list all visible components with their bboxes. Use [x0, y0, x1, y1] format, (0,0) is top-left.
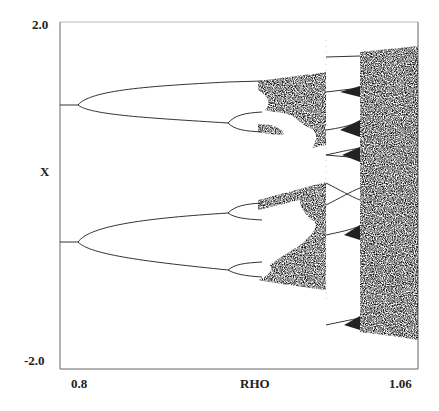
period-branches: [60, 81, 262, 277]
chaos-region-2: [360, 46, 418, 340]
window-cusps: [340, 86, 360, 330]
chaos-region-1: [258, 72, 326, 290]
bifurcation-plot: [0, 0, 439, 411]
periodic-window: [326, 56, 360, 325]
